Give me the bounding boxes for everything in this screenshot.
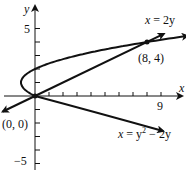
line-curve-back [3,96,35,112]
x-ticks [49,92,161,96]
parabola-curve [21,36,186,96]
tick-label-9: 9 [157,99,163,113]
x-axis-label: x [178,81,185,95]
parabola-equation-label: x = y2 − 2y [117,126,171,141]
axes [4,6,182,170]
tick-label-5: 5 [24,22,30,36]
point-origin [33,94,38,99]
origin-label: (0, 0) [2,117,28,131]
tick-label-neg5: −5 [14,154,27,168]
point-intersection [145,40,150,45]
y-axis-label: y [23,2,30,16]
intersection-label: (8, 4) [138,51,164,65]
graph: x y 9 5 −5 x = 2y (8, 4) (0, 0) x = y2 −… [0,0,186,173]
line-equation-label: x = 2y [144,13,175,27]
